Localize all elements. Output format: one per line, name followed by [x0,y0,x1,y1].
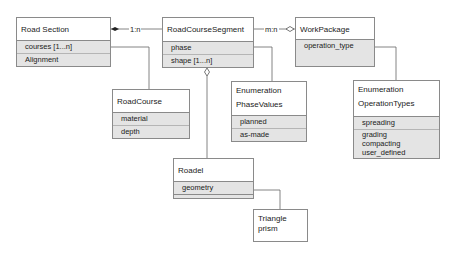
enum-value-planned: planned [232,116,306,129]
multiplicity-label-mn: m:n [264,25,279,34]
class-roadel[interactable]: Roadel geometry [173,158,254,199]
class-name: Road Section [17,18,110,36]
attribute-material: material [113,113,189,126]
aggregation-diamond-icon [286,27,294,32]
class-name: WorkPackage [296,18,374,36]
class-name: RoadCourseSegment [163,18,253,36]
attribute-operation-type: operation_type [296,40,374,52]
attribute-geometry: geometry [174,182,253,195]
attribute-list: operation_type [296,39,374,66]
class-road-course-segment[interactable]: RoadCourseSegment phase shape [1...n] [162,17,254,68]
attribute-shape: shape [1...n] [163,55,253,67]
class-name: OperationTypes [354,96,439,110]
multiplicity-label-1n: 1:n [129,25,141,34]
attribute-alignment: Alignment [17,54,110,66]
enum-value-compacting: compacting [354,139,439,148]
class-name: Roadel [174,159,253,177]
class-name: RoadCourse [113,90,189,108]
aggregation-diamond-icon [205,68,210,76]
attribute-list: geometry [174,181,253,198]
attribute-list: material depth [113,112,189,138]
class-name-line2: prism [254,224,307,234]
stereotype-label: Enumeration [354,81,439,96]
enum-values: spreading grading compacting user_define… [354,116,439,158]
enum-value-grading: grading [354,130,439,139]
attribute-list: courses [1...n] Alignment [17,40,110,66]
attribute-phase: phase [163,42,253,55]
class-work-package[interactable]: WorkPackage operation_type [295,17,375,67]
enum-value-spreading: spreading [354,117,439,130]
class-road-section[interactable]: Road Section courses [1...n] Alignment [16,17,111,67]
attribute-depth: depth [113,126,189,138]
composition-diamond-icon [111,27,119,31]
enum-operation-types[interactable]: Enumeration OperationTypes spreading gra… [353,80,440,159]
enum-value-as-made: as-made [232,129,306,141]
class-name-line1: Triangle [254,210,307,224]
class-road-course[interactable]: RoadCourse material depth [112,89,190,139]
enum-value-user-defined: user_defined [354,148,439,158]
stereotype-label: Enumeration [232,82,306,97]
class-triangle-prism[interactable]: Triangle prism [253,209,308,242]
attribute-list: phase shape [1...n] [163,41,253,67]
class-name: PhaseValues [232,97,306,111]
enum-values: planned as-made [232,115,306,141]
attribute-courses: courses [1...n] [17,41,110,54]
enum-phase-values[interactable]: Enumeration PhaseValues planned as-made [231,81,307,142]
